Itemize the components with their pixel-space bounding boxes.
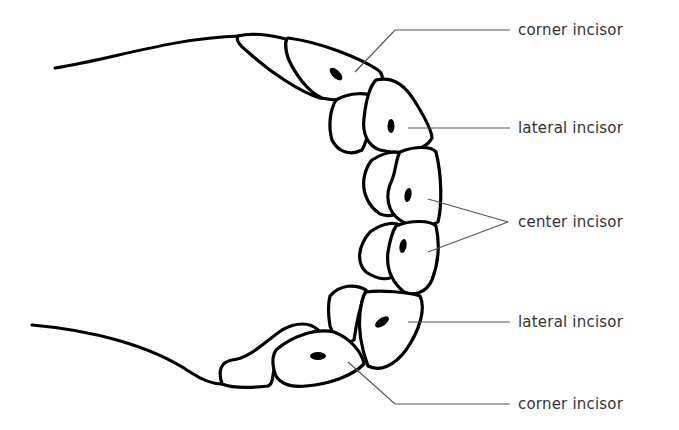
lower-lateral-incisor: [359, 291, 422, 368]
label-lateral-incisor-upper: lateral incisor: [518, 119, 623, 137]
label-center-incisor: center incisor: [518, 213, 623, 231]
upper-lateral-incisor: [364, 79, 432, 152]
label-corner-incisor-lower: corner incisor: [518, 395, 623, 413]
center-upper-incisor: [388, 148, 441, 227]
leader-center-2: [428, 222, 508, 252]
upper-lateral-mark: [388, 119, 395, 133]
lower-gum-line: [32, 325, 222, 384]
upper-gum-line: [55, 36, 240, 68]
lower-corner-mark: [310, 352, 326, 360]
label-lateral-incisor-lower: lateral incisor: [518, 313, 623, 331]
center-lower-incisor: [388, 222, 438, 294]
leader-corner-upper: [355, 30, 510, 72]
label-corner-incisor-upper: corner incisor: [518, 21, 623, 39]
